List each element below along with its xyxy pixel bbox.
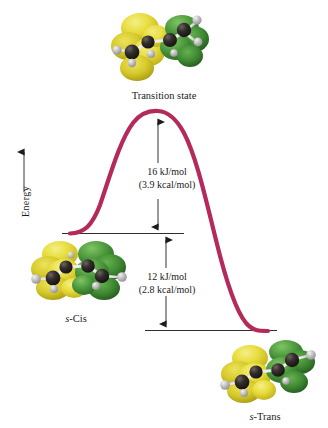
s-trans-molecule bbox=[220, 340, 316, 403]
s-cis-molecule bbox=[31, 241, 127, 300]
energy-difference-kj: 12 kJ/mol bbox=[122, 271, 212, 284]
energy-axis-label: Energy bbox=[20, 172, 31, 232]
activation-energy-annotation: 16 kJ/mol (3.9 kcal/mol) bbox=[124, 166, 210, 191]
activation-energy-kcal: (3.9 kcal/mol) bbox=[124, 179, 210, 192]
transition-state-label: Transition state bbox=[0, 90, 328, 102]
s-cis-label-rest: -Cis bbox=[69, 313, 87, 324]
activation-energy-kj: 16 kJ/mol bbox=[124, 166, 210, 179]
energy-difference-kcal: (2.8 kcal/mol) bbox=[122, 284, 212, 297]
energy-difference-annotation: 12 kJ/mol (2.8 kcal/mol) bbox=[122, 271, 212, 296]
transition-state-molecule bbox=[111, 13, 209, 81]
energy-profile-figure bbox=[0, 0, 328, 428]
s-trans-label-rest: -Trans bbox=[254, 411, 281, 422]
s-cis-label: s-Cis bbox=[38, 313, 114, 325]
s-trans-label: s-Trans bbox=[220, 411, 310, 423]
